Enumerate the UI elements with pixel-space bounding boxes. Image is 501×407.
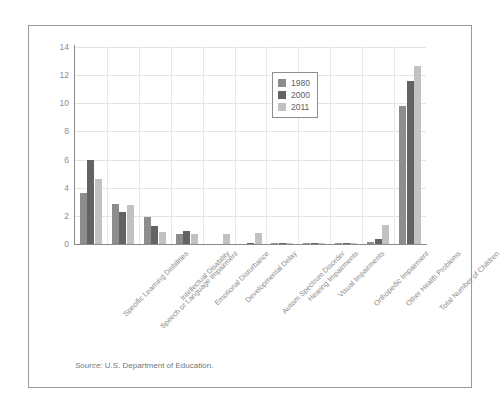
bar [367, 242, 374, 244]
bar [151, 226, 158, 244]
source-caption: Source: U.S. Department of Education. [75, 361, 213, 370]
y-axis-tick-label: 6 [64, 155, 69, 165]
bar [112, 204, 119, 244]
bar-group [399, 47, 421, 244]
bar [318, 243, 325, 244]
bar [223, 234, 230, 244]
source-label: Source: [75, 361, 103, 370]
x-axis-line [74, 244, 427, 245]
bar [255, 233, 262, 244]
bar [191, 234, 198, 244]
bar-group [112, 47, 134, 244]
vertical-gridline [235, 47, 236, 244]
bar [335, 243, 342, 244]
legend-label: 1980 [291, 79, 310, 88]
bar [414, 66, 421, 244]
bar-group [367, 47, 389, 244]
chart-card: 02468101214 Specific Learning Disbilitie… [28, 25, 472, 388]
bar [87, 160, 94, 244]
vertical-gridline [139, 47, 140, 244]
bar [303, 243, 310, 244]
legend-swatch [278, 91, 286, 99]
y-axis-tick-label: 4 [64, 183, 69, 193]
vertical-gridline [362, 47, 363, 244]
legend-swatch [278, 79, 286, 87]
vertical-gridline [394, 47, 395, 244]
bar [176, 234, 183, 244]
bar [279, 243, 286, 244]
bar-group [240, 47, 262, 244]
source-text: U.S. Department of Education. [105, 361, 214, 370]
bar-group [144, 47, 166, 244]
y-axis-tick-label: 2 [64, 211, 69, 221]
bar [375, 239, 382, 244]
bar [183, 231, 190, 244]
legend-label: 2011 [291, 103, 309, 112]
bar [311, 243, 318, 244]
bar [407, 81, 414, 244]
bar [286, 243, 293, 244]
bar [144, 217, 151, 244]
vertical-gridline [171, 47, 172, 244]
bar [399, 106, 406, 244]
legend-item: 2000 [278, 89, 310, 101]
bar [80, 193, 87, 244]
bar [343, 243, 350, 244]
x-axis-label: Developmental Delay [243, 249, 298, 304]
vertical-gridline [330, 47, 331, 244]
bar [350, 243, 357, 244]
y-axis-tick-label: 10 [60, 98, 69, 108]
vertical-gridline [266, 47, 267, 244]
y-axis-tick-label: 8 [64, 126, 69, 136]
y-axis-tick-label: 12 [60, 70, 69, 80]
legend-item: 1980 [278, 77, 310, 89]
bar [247, 243, 254, 244]
bar [382, 225, 389, 244]
legend-item: 2011 [278, 101, 310, 113]
y-axis-tick-label: 14 [60, 42, 69, 52]
bar [127, 205, 134, 244]
bar-group [335, 47, 357, 244]
chart-legend: 198020002011 [272, 72, 318, 118]
legend-swatch [278, 103, 286, 111]
bar-group [176, 47, 198, 244]
plot-area: 02468101214 Specific Learning Disbilitie… [75, 47, 426, 244]
vertical-gridline [203, 47, 204, 244]
bar-group [80, 47, 102, 244]
bar-group [208, 47, 230, 244]
bar [119, 212, 126, 244]
bar [95, 179, 102, 244]
bar [159, 232, 166, 244]
y-axis-tick-label: 0 [64, 239, 69, 249]
bar [271, 243, 278, 244]
vertical-gridline [107, 47, 108, 244]
legend-label: 2000 [291, 91, 310, 100]
